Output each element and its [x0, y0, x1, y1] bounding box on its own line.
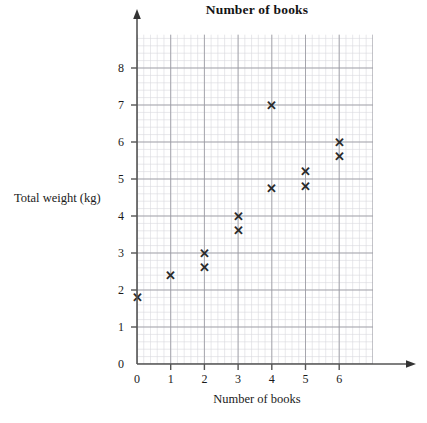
- data-point-marker: ✕: [232, 210, 245, 223]
- y-tick-label-1: 1: [104, 321, 124, 333]
- x-tick-label-3: 3: [228, 373, 248, 385]
- y-tick-label-2: 2: [104, 284, 124, 296]
- plot-area: ✕✕✕✕✕✕✕✕✕✕✕✕: [137, 25, 373, 364]
- data-point-marker: ✕: [265, 99, 278, 112]
- data-point-marker: ✕: [198, 261, 211, 274]
- y-tick-label-7: 7: [104, 99, 124, 111]
- y-tick-label-3: 3: [104, 247, 124, 259]
- x-tick-label-2: 2: [194, 373, 214, 385]
- x-tick-label-1: 1: [161, 373, 181, 385]
- page-title: Number of books: [137, 2, 377, 18]
- x-tick-label-0: 0: [127, 373, 147, 385]
- y-axis-title: Total weight (kg): [14, 191, 129, 206]
- data-point-marker: ✕: [232, 224, 245, 237]
- data-point-marker: ✕: [299, 165, 312, 178]
- data-point-marker: ✕: [299, 180, 312, 193]
- data-point-marker: ✕: [164, 269, 177, 282]
- x-tick-label-4: 4: [262, 373, 282, 385]
- chart-gridlines: [137, 25, 373, 364]
- y-tick-label-4: 4: [104, 210, 124, 222]
- x-tick-label-6: 6: [329, 373, 349, 385]
- y-tick-label-6: 6: [104, 136, 124, 148]
- data-point-marker: ✕: [265, 182, 278, 195]
- data-point-marker: ✕: [131, 291, 144, 304]
- data-point-marker: ✕: [333, 136, 346, 149]
- scatter-plot-figure: Number of books Total weight (kg) Number…: [0, 0, 427, 423]
- y-tick-label-0: 0: [104, 358, 124, 370]
- data-point-marker: ✕: [333, 150, 346, 163]
- y-tick-label-5: 5: [104, 173, 124, 185]
- y-tick-label-8: 8: [104, 62, 124, 74]
- x-axis-title: Number of books: [137, 392, 377, 407]
- x-tick-label-5: 5: [296, 373, 316, 385]
- data-point-marker: ✕: [198, 247, 211, 260]
